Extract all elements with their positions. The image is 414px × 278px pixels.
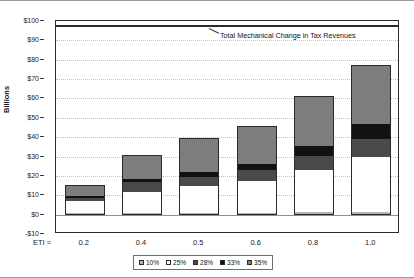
y-axis-tick-mark bbox=[40, 194, 44, 195]
legend-swatch-icon bbox=[193, 260, 198, 265]
y-axis-tick-label: $20 bbox=[27, 171, 39, 178]
y-axis-tick-label: $90 bbox=[27, 36, 39, 43]
y-axis-tick-mark bbox=[40, 156, 44, 157]
gridline bbox=[56, 137, 398, 138]
legend-item[interactable]: 33% bbox=[220, 259, 240, 266]
gridline bbox=[56, 157, 398, 158]
y-axis-tick-mark bbox=[40, 20, 44, 21]
x-axis-tick-label: 0.2 bbox=[78, 238, 88, 247]
x-axis-tick-label: 0.8 bbox=[308, 238, 318, 247]
stacked-bar bbox=[122, 21, 162, 234]
total-reference-line bbox=[56, 25, 398, 27]
stacked-bar bbox=[351, 21, 391, 234]
legend-label: 35% bbox=[254, 259, 267, 266]
legend-label: 28% bbox=[200, 259, 213, 266]
bar-segment-35pct bbox=[179, 138, 219, 171]
bar-segment-33pct bbox=[179, 172, 219, 177]
bar-segment-33pct bbox=[351, 124, 391, 139]
y-axis-tick-mark bbox=[40, 78, 44, 79]
gridline bbox=[56, 60, 398, 61]
y-axis-tick-label: $80 bbox=[27, 55, 39, 62]
bar-segment-10pct bbox=[65, 213, 105, 215]
chart-figure: -$10$0$10$20$30$40$50$60$70$80$90$100 Bi… bbox=[0, 0, 414, 278]
bar-segment-35pct bbox=[65, 185, 105, 196]
y-axis-tick-mark bbox=[40, 59, 44, 60]
y-axis-tick-mark bbox=[40, 136, 44, 137]
bar-segment-35pct bbox=[237, 126, 277, 164]
chart-annotation-label: Total Mechanical Change in Tax Revenues bbox=[220, 31, 356, 40]
bar-segment-10pct bbox=[351, 212, 391, 215]
gridline bbox=[56, 40, 398, 41]
legend-item[interactable]: 35% bbox=[247, 259, 267, 266]
bar-segment-33pct bbox=[122, 179, 162, 182]
y-axis-tick-mark bbox=[40, 233, 44, 234]
bar-segment-28pct bbox=[179, 177, 219, 187]
bar-segment-10pct bbox=[179, 213, 219, 215]
gridline bbox=[56, 98, 398, 99]
bar-segment-25pct bbox=[122, 192, 162, 213]
stacked-bar bbox=[294, 21, 334, 234]
stacked-bar bbox=[237, 21, 277, 234]
x-axis-tick-label: 0.6 bbox=[250, 238, 260, 247]
bar-segment-28pct bbox=[237, 170, 277, 180]
x-axis-title: ETI = bbox=[33, 238, 51, 247]
gridline bbox=[56, 195, 398, 196]
gridline bbox=[56, 118, 398, 119]
bar-segment-10pct bbox=[237, 213, 277, 215]
bar-segment-25pct bbox=[237, 181, 277, 213]
x-axis-tick-label: 0.4 bbox=[136, 238, 146, 247]
bar-segment-25pct bbox=[294, 170, 334, 213]
stacked-bar bbox=[179, 21, 219, 234]
bar-segment-25pct bbox=[351, 157, 391, 212]
bar-segment-10pct bbox=[294, 212, 334, 215]
bar-segment-28pct bbox=[65, 198, 105, 201]
bar-segment-25pct bbox=[65, 201, 105, 213]
bar-segment-35pct bbox=[294, 96, 334, 147]
bar-segment-33pct bbox=[65, 196, 105, 199]
y-axis-tick-label: -$10 bbox=[25, 230, 39, 237]
y-axis-tick-label: $50 bbox=[27, 113, 39, 120]
chart-legend: 10%25%28%33%35% bbox=[133, 255, 273, 270]
stacked-bar bbox=[65, 21, 105, 234]
legend-label: 25% bbox=[173, 259, 186, 266]
legend-swatch-icon bbox=[166, 260, 171, 265]
gridline bbox=[56, 176, 398, 177]
y-axis-tick-mark bbox=[40, 214, 44, 215]
x-axis-tick-label: 1.0 bbox=[365, 238, 375, 247]
x-axis-tick-label: 0.5 bbox=[193, 238, 203, 247]
y-axis-tick-label: $0 bbox=[31, 210, 39, 217]
legend-item[interactable]: 25% bbox=[166, 259, 186, 266]
y-axis-tick-label: $30 bbox=[27, 152, 39, 159]
bar-segment-10pct bbox=[122, 213, 162, 215]
bar-segment-33pct bbox=[294, 146, 334, 156]
legend-label: 10% bbox=[146, 259, 159, 266]
legend-swatch-icon bbox=[139, 260, 144, 265]
legend-swatch-icon bbox=[220, 260, 225, 265]
y-axis-tick-label: $40 bbox=[27, 133, 39, 140]
y-axis-tick-label: $10 bbox=[27, 191, 39, 198]
bar-segment-28pct bbox=[294, 156, 334, 169]
bar-segment-28pct bbox=[122, 182, 162, 191]
bar-segment-35pct bbox=[122, 155, 162, 179]
legend-swatch-icon bbox=[247, 260, 252, 265]
plot-area: Total Mechanical Change in Tax Revenues bbox=[55, 20, 399, 233]
legend-item[interactable]: 28% bbox=[193, 259, 213, 266]
y-axis-tick-label: $70 bbox=[27, 75, 39, 82]
y-axis-title: Billions bbox=[2, 86, 11, 113]
y-axis-tick-label: $100 bbox=[23, 17, 39, 24]
zero-line bbox=[56, 215, 398, 216]
y-axis-tick-mark bbox=[40, 39, 44, 40]
bar-segment-35pct bbox=[351, 65, 391, 124]
y-axis-tick-mark bbox=[40, 97, 44, 98]
bar-segment-25pct bbox=[179, 186, 219, 212]
y-axis-tick-label: $60 bbox=[27, 94, 39, 101]
y-axis-tick-mark bbox=[40, 117, 44, 118]
legend-item[interactable]: 10% bbox=[139, 259, 159, 266]
gridline bbox=[56, 79, 398, 80]
y-axis-tick-mark bbox=[40, 175, 44, 176]
legend-label: 33% bbox=[227, 259, 240, 266]
x-axis: ETI = 0.20.40.50.60.81.0 bbox=[0, 237, 414, 253]
bar-segment-28pct bbox=[351, 139, 391, 156]
bar-segment-33pct bbox=[237, 164, 277, 171]
